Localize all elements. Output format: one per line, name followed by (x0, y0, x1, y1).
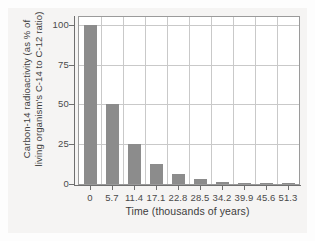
bar (172, 174, 185, 184)
bar (282, 183, 295, 184)
bar (260, 183, 273, 184)
bar (150, 164, 163, 184)
plot-area (78, 16, 300, 185)
bar-series (79, 17, 299, 184)
bar (128, 144, 141, 184)
x-axis-tick-label: 51.3 (273, 192, 303, 203)
y-axis-tick-label-wrap: 0 (43, 179, 69, 189)
bar (216, 182, 229, 184)
y-axis-tick-label: 50 (45, 99, 69, 109)
y-axis-tick (69, 144, 75, 145)
x-axis-tick (222, 186, 223, 190)
x-axis-tick (156, 186, 157, 190)
y-axis-tick (69, 25, 75, 26)
y-axis-tick-label: 75 (45, 60, 69, 70)
x-axis-title: Time (thousands of years) (60, 205, 315, 217)
x-axis-tick (112, 186, 113, 190)
x-axis-tick (178, 186, 179, 190)
y-axis-line (74, 16, 75, 186)
x-axis-tick (288, 186, 289, 190)
bar (106, 104, 119, 184)
y-axis-tick-label: 0 (45, 179, 69, 189)
x-axis-tick (134, 186, 135, 190)
y-axis-tick (69, 104, 75, 105)
y-axis-tick-label-wrap: 25 (43, 139, 69, 149)
x-axis-tick (244, 186, 245, 190)
y-axis-tick-label-wrap: 75 (43, 60, 69, 70)
bar (194, 179, 207, 184)
bar (84, 25, 97, 184)
y-axis-tick-label-wrap: 50 (43, 99, 69, 109)
y-axis-tick (69, 65, 75, 66)
x-axis-tick (200, 186, 201, 190)
y-axis-tick-label: 100 (45, 20, 69, 30)
y-axis-title: Carbon-14 radioactivity (as % of living … (21, 9, 45, 169)
y-axis-tick-label-wrap: 100 (43, 20, 69, 30)
x-axis-tick (266, 186, 267, 190)
y-axis-tick-label: 25 (45, 139, 69, 149)
y-axis-title-line-1: Carbon-14 radioactivity (as % of (21, 9, 33, 169)
chart-figure: Carbon-14 radioactivity (as % of living … (0, 0, 315, 241)
bar (238, 183, 251, 184)
x-axis-tick (90, 186, 91, 190)
